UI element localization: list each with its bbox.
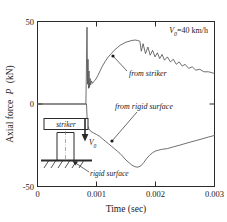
xtick-label-0: 0 bbox=[35, 189, 39, 199]
inset-rigid-surface-label: rigid surface bbox=[90, 169, 129, 178]
xtick-label-2: 0.002 bbox=[146, 189, 165, 199]
chart-svg: 50 0 -50 0 0.001 0.002 0.003 Time (sec) … bbox=[0, 0, 227, 222]
y-axis-title-part1: Axial force bbox=[5, 100, 15, 143]
inset-striker-label: striker bbox=[56, 120, 76, 129]
svg-text:Axial force P: Axial force P (kN) bbox=[5, 65, 16, 143]
condition-rest: =40 km/h bbox=[177, 26, 208, 35]
series-from-striker bbox=[38, 27, 215, 104]
callout-from-striker-label: from striker bbox=[129, 69, 168, 78]
inset-schematic: striker V0 bbox=[41, 118, 129, 178]
y-axis-title: Axial force P (kN) bbox=[5, 65, 16, 143]
condition-label: V0=40 km/h bbox=[169, 26, 208, 37]
inset-v0-sub: 0 bbox=[94, 143, 97, 149]
callout-from-rigid-surface: from rigid surface bbox=[110, 102, 173, 143]
ytick-label-top: 50 bbox=[26, 17, 35, 27]
y-axis-title-symbol: P bbox=[5, 88, 15, 95]
inset-velocity-arrow-head bbox=[82, 134, 89, 142]
x-axis-title: Time (sec) bbox=[106, 204, 147, 215]
series-from-rigid-surface bbox=[38, 104, 215, 167]
xtick-label-1: 0.001 bbox=[87, 189, 106, 199]
y-axis-title-part2: (kN) bbox=[5, 65, 16, 83]
callout-from-rigid-surface-label: from rigid surface bbox=[115, 102, 173, 111]
ytick-label-bottom: -50 bbox=[23, 182, 34, 192]
chart-figure: 50 0 -50 0 0.001 0.002 0.003 Time (sec) … bbox=[0, 0, 227, 222]
ytick-label-mid: 0 bbox=[30, 99, 34, 109]
inset-rigid-surface-arrowhead bbox=[73, 161, 79, 165]
xtick-label-3: 0.003 bbox=[205, 189, 224, 199]
inset-velocity-label: V0 bbox=[89, 138, 97, 149]
